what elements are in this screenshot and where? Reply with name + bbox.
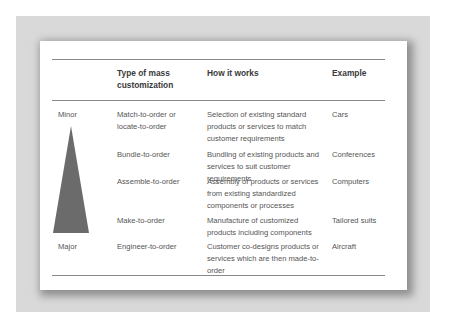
row-type: Match-to-order or locate-to-order — [117, 109, 197, 133]
row-how: Manufacture of customized products inclu… — [207, 215, 325, 239]
row-type: Engineer-to-order — [117, 241, 197, 253]
scale-label-major: Major — [58, 241, 77, 253]
header-rule — [52, 100, 385, 101]
row-type: Assemble-to-order — [117, 176, 197, 188]
bottom-rule — [52, 275, 385, 276]
scale-label-minor: Minor — [58, 109, 77, 121]
row-type: Bundle-to-order — [117, 149, 197, 161]
row-example: Computers — [332, 176, 369, 188]
row-how: Selection of existing standard products … — [207, 109, 325, 145]
row-example: Conferences — [332, 149, 375, 161]
top-rule — [52, 59, 385, 60]
row-example: Cars — [332, 109, 348, 121]
row-example: Tailored suits — [332, 215, 376, 227]
row-how: Customer co-designs products or services… — [207, 241, 332, 277]
header-example: Example — [332, 67, 392, 79]
row-example: Aircraft — [332, 241, 356, 253]
row-how: Assembly of products or services from ex… — [207, 176, 332, 212]
header-how: How it works — [207, 67, 347, 79]
scale-triangle-icon — [53, 126, 89, 233]
row-type: Make-to-order — [117, 215, 197, 227]
header-type: Type of mass customization — [117, 67, 197, 91]
customization-table: Type of mass customization How it works … — [40, 41, 407, 290]
